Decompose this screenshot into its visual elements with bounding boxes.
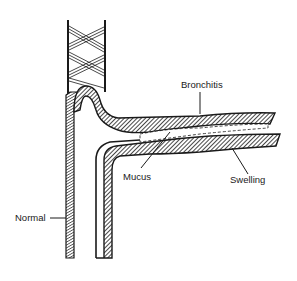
inner-lower-wall <box>96 140 140 258</box>
label-mucus: Mucus <box>123 171 151 182</box>
bronchitis-diagram: Bronchitis Mucus Swelling Normal <box>0 0 297 281</box>
label-bronchitis: Bronchitis <box>181 79 223 90</box>
swelling-leader <box>232 148 248 174</box>
label-swelling: Swelling <box>230 174 265 185</box>
swelling-lower-wall <box>96 134 280 258</box>
normal-wall <box>66 92 80 258</box>
label-normal: Normal <box>15 212 46 223</box>
